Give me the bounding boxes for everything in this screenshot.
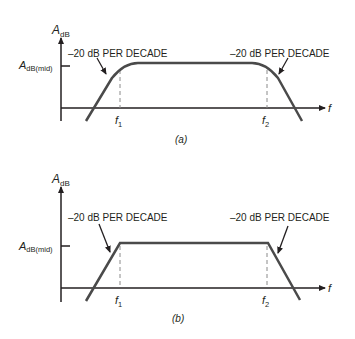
x-axis-label: f bbox=[328, 102, 332, 114]
figure-a: AdB AdB(mid) –20 dB PER DECADE –20 dB PE… bbox=[18, 23, 332, 145]
left-annotation-arrow bbox=[97, 58, 106, 74]
response-curve bbox=[86, 243, 300, 301]
response-curve bbox=[86, 63, 302, 121]
f1-label: f1 bbox=[115, 294, 122, 309]
left-annotation: –20 dB PER DECADE bbox=[68, 48, 168, 59]
left-annotation: –20 dB PER DECADE bbox=[68, 212, 168, 223]
f2-label: f2 bbox=[262, 294, 269, 309]
right-annotation-arrow bbox=[278, 226, 288, 253]
y-axis-label: AdB bbox=[51, 172, 70, 188]
right-annotation: –20 dB PER DECADE bbox=[230, 48, 330, 59]
f1-label: f1 bbox=[115, 114, 122, 129]
caption-b: (b) bbox=[172, 313, 184, 324]
right-annotation: –20 dB PER DECADE bbox=[230, 212, 330, 223]
f2-label: f2 bbox=[262, 114, 269, 129]
x-axis-label: f bbox=[328, 282, 332, 294]
figure-b: AdB AdB(mid) –20 dB PER DECADE –20 dB PE… bbox=[18, 172, 332, 324]
y-axis-label: AdB bbox=[51, 23, 70, 39]
mid-label: AdB(mid) bbox=[18, 240, 53, 254]
caption-a: (a) bbox=[175, 134, 187, 145]
mid-label: AdB(mid) bbox=[18, 59, 53, 73]
right-annotation-arrow bbox=[279, 58, 288, 74]
bandpass-bode-diagram: AdB AdB(mid) –20 dB PER DECADE –20 dB PE… bbox=[0, 0, 355, 339]
left-annotation-arrow bbox=[99, 224, 110, 252]
